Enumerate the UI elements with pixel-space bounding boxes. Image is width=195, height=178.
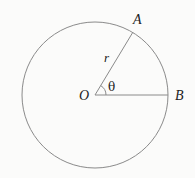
label-point-b: B — [175, 88, 184, 103]
label-radius-r: r — [104, 50, 110, 65]
circle-diagram: A B O r θ — [0, 0, 195, 178]
label-angle-theta: θ — [108, 80, 115, 94]
angle-arc — [101, 86, 106, 95]
label-center-o: O — [79, 88, 89, 103]
label-point-a: A — [132, 12, 142, 27]
